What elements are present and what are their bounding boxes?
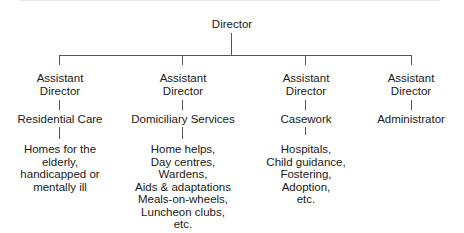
duty-line: Child guidance, <box>266 156 345 169</box>
head-line-2: Director <box>160 85 207 98</box>
head-line-2: Director <box>388 85 435 98</box>
node-assistant-director-1: Assistant Director <box>37 72 84 97</box>
node-residential-duties: Homes for the elderly, handicapped or me… <box>20 143 99 193</box>
top-rule <box>20 0 440 1</box>
node-domiciliary-duties: Home helps, Day centres, Wardens, Aids &… <box>135 143 231 231</box>
duty-line: handicapped or <box>20 168 99 181</box>
duty-line: Fostering, <box>266 168 345 181</box>
connector-col2-unit <box>182 100 183 110</box>
duty-line: Day centres, <box>135 156 231 169</box>
node-assistant-director-2: Assistant Director <box>160 72 207 97</box>
node-casework-duties: Hospitals, Child guidance, Fostering, Ad… <box>266 143 345 206</box>
node-residential-care: Residential Care <box>17 113 102 126</box>
connector-col4 <box>411 55 412 65</box>
duty-line: elderly, <box>20 156 99 169</box>
node-assistant-director-4: Assistant Director <box>388 72 435 97</box>
node-casework: Casework <box>280 113 331 126</box>
duty-line: Adoption, <box>266 181 345 194</box>
node-director: Director <box>212 18 252 31</box>
head-line-1: Assistant <box>283 72 330 85</box>
duty-line: Luncheon clubs, <box>135 206 231 219</box>
head-line-1: Assistant <box>160 72 207 85</box>
head-line-2: Director <box>283 85 330 98</box>
connector-col1-unit <box>59 100 60 110</box>
duty-line: Hospitals, <box>266 143 345 156</box>
duty-line: etc. <box>266 193 345 206</box>
connector-root <box>231 33 232 55</box>
connector-col1-duties <box>59 127 60 139</box>
duty-line: etc. <box>135 218 231 231</box>
head-line-2: Director <box>37 85 84 98</box>
duty-line: Homes for the <box>20 143 99 156</box>
connector-col2 <box>182 55 183 65</box>
node-assistant-director-3: Assistant Director <box>283 72 330 97</box>
duty-line: Wardens, <box>135 168 231 181</box>
node-administrator: Administrator <box>377 113 445 126</box>
connector-col2-duties <box>182 127 183 139</box>
connector-col4-unit <box>411 100 412 110</box>
head-line-1: Assistant <box>388 72 435 85</box>
connector-col1 <box>59 55 60 65</box>
connector-bar <box>59 55 412 56</box>
connector-col3-unit <box>305 100 306 110</box>
duty-line: Aids & adaptations <box>135 181 231 194</box>
duty-line: mentally ill <box>20 181 99 194</box>
node-domiciliary-services: Domiciliary Services <box>131 113 235 126</box>
connector-col3 <box>305 55 306 65</box>
duty-line: Meals-on-wheels, <box>135 193 231 206</box>
connector-col3-duties <box>305 127 306 135</box>
head-line-1: Assistant <box>37 72 84 85</box>
duty-line: Home helps, <box>135 143 231 156</box>
